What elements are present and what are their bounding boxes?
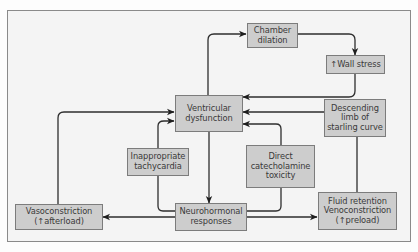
arrow-chamber-to-wallstress (297, 34, 355, 55)
box-catecholamine-toxicity: Direct catecholamine toxicity (246, 145, 315, 188)
box-descending-limb: Descending limb of starling curve (324, 99, 386, 137)
box-inappropriate-tachycardia: Inappropriate tachycardia (127, 148, 189, 176)
box-vasoconstriction: Vasoconstriction (↑afterload) (15, 204, 103, 230)
box-ventricular-dysfunction: Ventricular dysfunction (175, 95, 243, 132)
box-neurohormonal-responses: Neurohormonal responses (175, 203, 247, 231)
box-wall-stress: ↑Wall stress (326, 55, 385, 74)
box-chamber-dilation: Chamber dilation (247, 23, 298, 48)
arrow-vd-to-chamber (208, 34, 246, 95)
arrow-wallstress-to-vd (243, 74, 355, 97)
box-fluid-retention: Fluid retention Venoconstriction (↑prelo… (318, 192, 397, 230)
